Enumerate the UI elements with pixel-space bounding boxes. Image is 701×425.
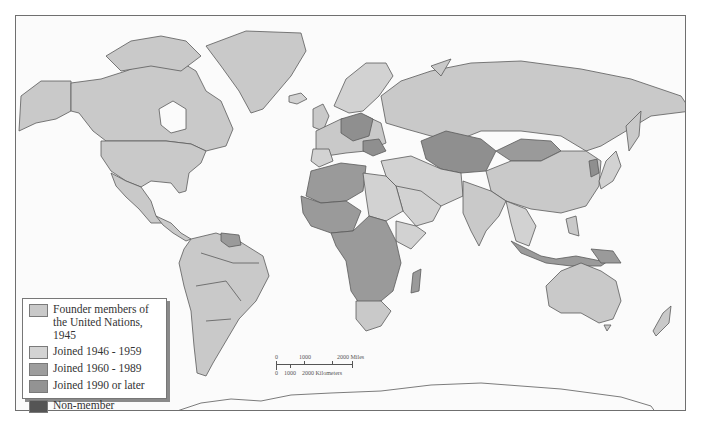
region-canada-islands	[106, 36, 201, 71]
legend-swatch-1960-1989	[29, 363, 48, 376]
legend-item-1990-later: Joined 1990 or later	[29, 379, 160, 393]
region-south-america	[179, 233, 269, 376]
region-australia	[546, 263, 621, 323]
region-antarctica	[171, 383, 656, 411]
legend-label-founder: Founder members of the United Nations, 1…	[53, 303, 160, 342]
region-canada	[71, 59, 233, 151]
legend-swatch-1990-later	[29, 380, 48, 393]
region-alaska	[19, 81, 71, 131]
scale-tick	[352, 361, 353, 368]
legend-label-1960-1989: Joined 1960 - 1989	[53, 362, 141, 375]
scale-km-2000: 2000 Kilometers	[302, 370, 342, 376]
scale-bar: 0 1000 2000 Miles 0 1000 2000 Kilometers	[272, 352, 382, 392]
region-new-zealand	[653, 306, 671, 336]
region-philippines	[566, 216, 579, 236]
region-horn-africa	[396, 221, 426, 249]
region-iceland	[289, 93, 307, 104]
legend-item-1960-1989: Joined 1960 - 1989	[29, 362, 160, 376]
legend-swatch-founder	[29, 304, 48, 317]
region-russia	[381, 61, 686, 151]
region-south-africa	[356, 301, 391, 331]
legend-label-1946-1959: Joined 1946 - 1959	[53, 345, 141, 358]
scale-miles-1000: 1000	[299, 354, 311, 360]
scale-line	[276, 364, 352, 365]
region-iberia	[311, 149, 333, 167]
scale-km-0: 0	[275, 370, 278, 376]
legend-item-non-member: Non-member	[29, 399, 160, 413]
legend-label-1990-later: Joined 1990 or later	[53, 379, 145, 392]
region-north-africa-west	[306, 163, 366, 203]
scale-tick	[304, 361, 305, 365]
map-legend: Founder members of the United Nations, 1…	[22, 298, 167, 399]
scale-tick	[332, 361, 333, 365]
scale-tick	[290, 364, 291, 368]
region-tasmania	[604, 325, 611, 331]
scale-km-1000: 1000	[284, 370, 296, 376]
region-madagascar	[411, 269, 421, 293]
region-central-america	[156, 216, 191, 241]
scale-miles-0: 0	[275, 354, 278, 360]
legend-item-1946-1959: Joined 1946 - 1959	[29, 345, 160, 359]
region-japan	[599, 151, 621, 189]
legend-item-founder: Founder members of the United Nations, 1…	[29, 303, 160, 342]
scale-miles-2000: 2000 Miles	[337, 354, 364, 360]
legend-label-non-member: Non-member	[53, 399, 114, 412]
legend-swatch-non-member	[29, 400, 48, 413]
legend-swatch-1946-1959	[29, 346, 48, 359]
scale-tick	[276, 361, 277, 370]
